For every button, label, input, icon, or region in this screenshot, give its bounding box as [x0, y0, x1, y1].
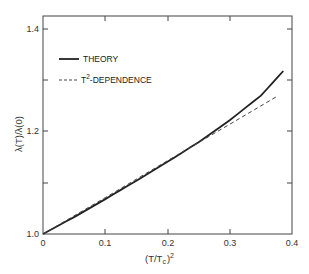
t2-dependence-line — [43, 96, 278, 234]
y-ticks — [43, 29, 292, 183]
x-axis-title: (T/Tc)2 — [145, 252, 174, 265]
x-ticks — [105, 16, 230, 234]
x-tick-label: 0.4 — [286, 238, 299, 248]
x-axis-title-sup: 2 — [170, 252, 174, 259]
legend-t2-suffix: -DEPENDENCE — [90, 75, 152, 85]
theory-curve — [43, 71, 283, 234]
legend-label-t2: T2-DEPENDENCE — [81, 73, 152, 85]
x-axis-title-main: (T/T — [145, 253, 163, 264]
legend: THEORY T2-DEPENDENCE — [59, 54, 152, 85]
y-tick-label: 1.0 — [26, 229, 39, 239]
x-tick-label: 0 — [40, 238, 45, 248]
y-tick-label: 1.2 — [26, 126, 39, 136]
x-axis-title-sub: c — [162, 258, 166, 265]
x-tick-label: 0.2 — [162, 238, 175, 248]
legend-label-theory: THEORY — [83, 54, 119, 64]
x-tick-label: 0.1 — [99, 238, 112, 248]
y-tick-label: 1.4 — [26, 24, 39, 34]
y-axis-title: λ(T)/λ(0) — [13, 116, 24, 152]
chart: 0 0.1 0.2 0.3 0.4 1.0 1.2 1.4 (T/Tc)2 λ(… — [0, 0, 309, 274]
plot-frame — [43, 16, 292, 234]
x-tick-label: 0.3 — [224, 238, 237, 248]
